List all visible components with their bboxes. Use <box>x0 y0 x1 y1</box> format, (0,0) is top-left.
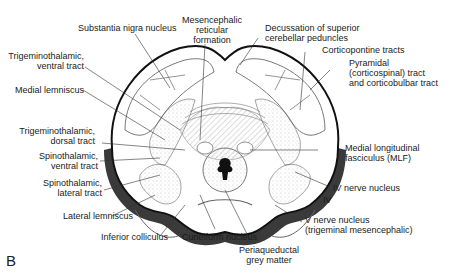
label-spinothalamic-ventral: Spinothalamic, ventral tract <box>20 151 98 171</box>
label-inferior-colliculus: Inferior colliculus <box>101 232 168 242</box>
label-substantia-nigra: Substantia nigra nucleus <box>78 23 177 33</box>
label-v-nerve-nucleus: V nerve nucleus (trigeminal mesencephali… <box>305 215 413 235</box>
label-mlf: Medial longitudinal fasciculus (MLF) <box>345 143 420 163</box>
label-mesencephalic-reticular-formation: Mesencephalic reticular formation <box>182 15 242 45</box>
label-iv-nerve: IV <box>323 195 332 205</box>
panel-letter: B <box>6 252 16 269</box>
label-cuneiform-nucleus: Cuneiform nucleus <box>182 232 257 242</box>
label-spinothalamic-lateral: Spinothalamic, lateral tract <box>22 178 102 198</box>
label-trigeminothalamic-dorsal: Trigeminothalamic, dorsal tract <box>10 126 95 146</box>
label-iv-nerve-nucleus: IV nerve nucleus <box>333 183 400 193</box>
label-corticopontine: Corticopontine tracts <box>322 45 405 55</box>
label-pyramidal: Pyramidal (corticospinal) tract and cort… <box>349 58 438 88</box>
label-lateral-lemniscus: Lateral lemniscus <box>63 211 133 221</box>
label-periaqueductal-grey: Periaqueductal grey matter <box>234 245 304 265</box>
label-medial-lemniscus: Medial lemniscus <box>15 85 84 95</box>
label-decussation-scp: Decussation of superior cerebellar pedun… <box>265 23 360 43</box>
label-trigeminothalamic-ventral: Trigeminothalamic, ventral tract <box>8 51 84 71</box>
